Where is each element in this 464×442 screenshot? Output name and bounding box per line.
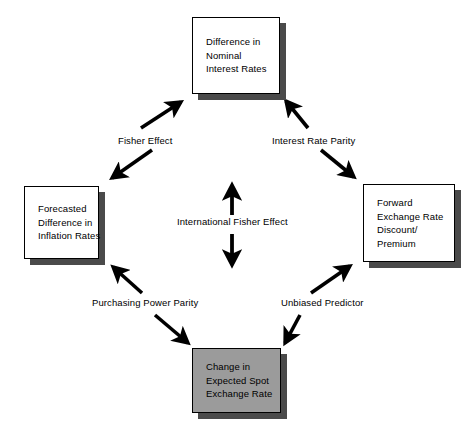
node-change-in-expected-spot-exchange-rate: Change in Expected Spot Exchange Rate xyxy=(192,348,281,413)
arrow-purchasing-power-parity-to-spot xyxy=(155,315,188,343)
arrow-purchasing-power-parity-to-inflation xyxy=(113,267,142,293)
node-text-line: Discount/ xyxy=(377,223,448,237)
node-text-line: Change in xyxy=(206,360,274,374)
node-face: Change in Expected Spot Exchange Rate xyxy=(192,348,281,413)
node-text-line: Premium xyxy=(377,237,448,251)
arrow-interest-rate-parity-to-nominal xyxy=(286,101,308,128)
edge-label-fisher-effect: Fisher Effect xyxy=(118,135,172,147)
arrow-fisher-effect-to-nominal xyxy=(141,102,181,128)
node-text-line: Exchange Rate xyxy=(377,210,448,224)
arrow-unbiased-predictor-to-spot xyxy=(285,315,300,343)
node-text-line: Difference in xyxy=(206,35,273,49)
edge-label-international-fisher-effect: International Fisher Effect xyxy=(177,216,288,228)
parity-conditions-diagram: Difference in Nominal Interest Rates For… xyxy=(0,0,464,442)
node-text-line: Interest Rates xyxy=(206,62,273,76)
node-text-line: Forward xyxy=(377,196,448,210)
node-text-line: Expected Spot xyxy=(206,374,274,388)
node-forward-exchange-rate-discount-premium: Forward Exchange Rate Discount/ Premium xyxy=(363,184,455,262)
arrow-fisher-effect-to-inflation xyxy=(112,150,152,178)
node-face: Forward Exchange Rate Discount/ Premium xyxy=(363,184,455,262)
edge-label-purchasing-power-parity: Purchasing Power Parity xyxy=(92,297,198,309)
node-text-line: Forecasted xyxy=(38,202,92,216)
node-face: Difference in Nominal Interest Rates xyxy=(192,17,280,94)
node-text-line: Exchange Rate xyxy=(206,387,274,401)
node-text-line: Inflation Rates xyxy=(38,229,92,243)
node-difference-in-nominal-interest-rates: Difference in Nominal Interest Rates xyxy=(192,17,280,94)
edge-label-interest-rate-parity: Interest Rate Parity xyxy=(272,135,355,147)
arrow-unbiased-predictor-to-forward xyxy=(311,266,350,293)
node-text-line: Difference in xyxy=(38,216,92,230)
node-text-line: Nominal xyxy=(206,49,273,63)
edge-label-unbiased-predictor: Unbiased Predictor xyxy=(281,297,364,309)
node-forecasted-difference-in-inflation-rates: Forecasted Difference in Inflation Rates xyxy=(24,186,99,259)
node-face: Forecasted Difference in Inflation Rates xyxy=(24,186,99,259)
arrow-interest-rate-parity-to-forward xyxy=(321,150,354,177)
